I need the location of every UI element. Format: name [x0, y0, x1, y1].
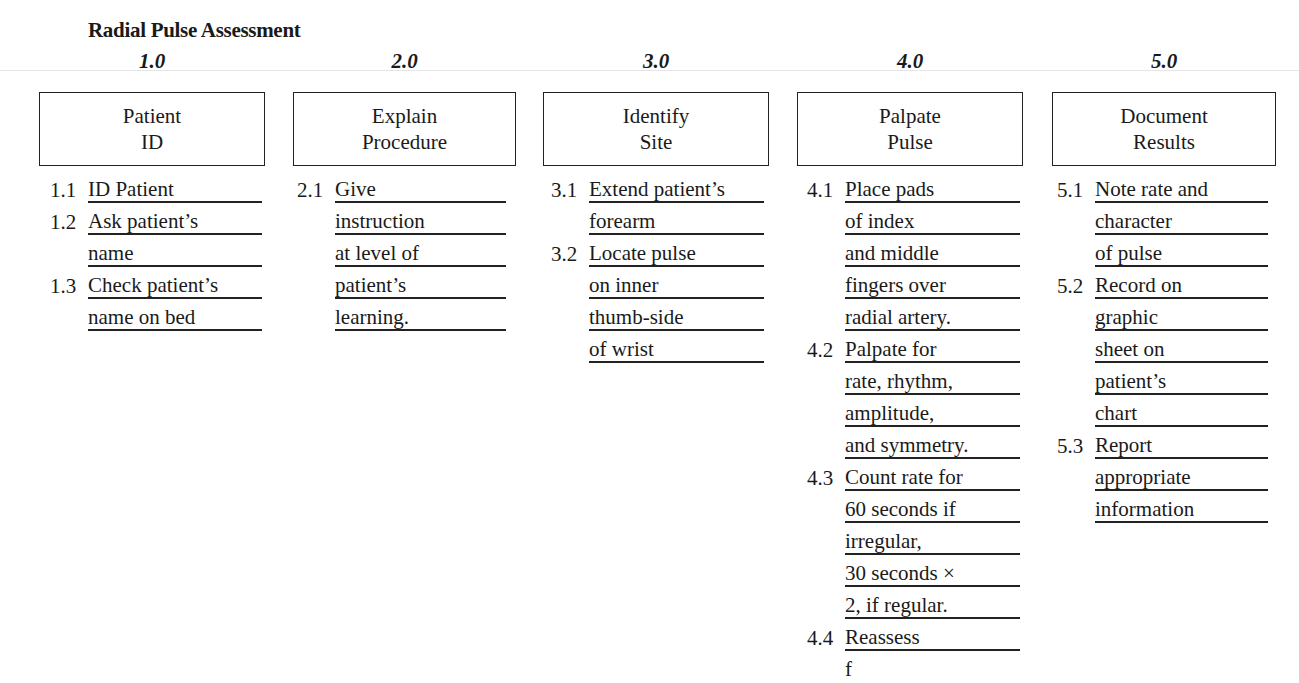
substep-line: 4.2Palpate for: [807, 334, 1022, 366]
step-box-line: ID: [141, 129, 163, 155]
substep-line: fingers over: [807, 270, 1022, 302]
substep-line: 4.3Count rate for: [807, 462, 1022, 494]
step-box-line: Patient: [123, 103, 181, 129]
substep-line: radial artery.: [807, 302, 1022, 334]
step-number-3: 3.0: [543, 49, 769, 74]
substep-text: name on bed: [88, 302, 262, 331]
substep-line: 5.2Record on: [1057, 270, 1272, 302]
substep-line: amplitude,: [807, 398, 1022, 430]
substep-text: Extend patient’s: [589, 174, 764, 203]
substep-line: 3.1Extend patient’s: [551, 174, 766, 206]
substep-line: graphic: [1057, 302, 1272, 334]
substep-text: appropriate: [1095, 462, 1268, 491]
substep-text: Ask patient’s: [88, 206, 262, 235]
substep-number: 1.3: [50, 270, 76, 302]
substep-text: of wrist: [589, 334, 764, 363]
substep-line: 2, if regular.: [807, 590, 1022, 622]
substep-text: Record on: [1095, 270, 1268, 299]
substep-text: patient’s: [335, 270, 506, 299]
substep-line: chart: [1057, 398, 1272, 430]
step-box-identify-site: Identify Site: [543, 92, 769, 166]
substep-text: amplitude,: [845, 398, 1020, 427]
step-box-line: Pulse: [887, 129, 933, 155]
substep-line: and middle: [807, 238, 1022, 270]
substep-number: 4.4: [807, 622, 833, 654]
substep-line: 5.3Report: [1057, 430, 1272, 462]
step-box-line: Site: [640, 129, 673, 155]
substeps-1: 1.1ID Patient 1.2Ask patient’s name 1.3C…: [50, 174, 265, 334]
substeps-4: 4.1Place pads of index and middle finger…: [807, 174, 1022, 683]
substep-line: name: [50, 238, 265, 270]
substep-line: 1.2Ask patient’s: [50, 206, 265, 238]
step-box-explain-procedure: Explain Procedure: [293, 92, 516, 166]
step-number-2: 2.0: [293, 49, 516, 74]
substeps-5: 5.1Note rate and character of pulse 5.2R…: [1057, 174, 1272, 526]
substep-line: forearm: [551, 206, 766, 238]
substep-line: f: [807, 654, 1022, 683]
substep-line: 4.1Place pads: [807, 174, 1022, 206]
step-number-1: 1.0: [39, 49, 265, 74]
step-box-palpate-pulse: Palpate Pulse: [797, 92, 1023, 166]
step-number-5: 5.0: [1052, 49, 1276, 74]
diagram-title: Radial Pulse Assessment: [88, 18, 300, 43]
substep-line: of wrist: [551, 334, 766, 366]
substep-line: 1.3Check patient’s: [50, 270, 265, 302]
substep-line: instruction: [297, 206, 512, 238]
substep-text: ID Patient: [88, 174, 262, 203]
substep-line: irregular,: [807, 526, 1022, 558]
substep-text: Check patient’s: [88, 270, 262, 299]
substep-text: sheet on: [1095, 334, 1268, 363]
substep-text: Reassess: [845, 622, 1020, 651]
substep-text: Count rate for: [845, 462, 1020, 491]
substep-line: information: [1057, 494, 1272, 526]
substep-text: Palpate for: [845, 334, 1020, 363]
substep-text: radial artery.: [845, 302, 1020, 331]
substep-line: learning.: [297, 302, 512, 334]
substep-number: 5.1: [1057, 174, 1083, 206]
substep-number: 3.1: [551, 174, 577, 206]
substep-line: 60 seconds if: [807, 494, 1022, 526]
substep-text: graphic: [1095, 302, 1268, 331]
substep-line: of pulse: [1057, 238, 1272, 270]
substep-text: Note rate and: [1095, 174, 1268, 203]
substep-text: chart: [1095, 398, 1268, 427]
step-number-4: 4.0: [797, 49, 1023, 74]
substep-line: character: [1057, 206, 1272, 238]
substep-number: 4.1: [807, 174, 833, 206]
step-box-line: Explain: [372, 103, 437, 129]
substep-text: learning.: [335, 302, 506, 331]
step-box-line: Results: [1133, 129, 1195, 155]
substep-line: and symmetry.: [807, 430, 1022, 462]
substep-number: 4.2: [807, 334, 833, 366]
step-box-document-results: Document Results: [1052, 92, 1276, 166]
substep-text: fingers over: [845, 270, 1020, 299]
substep-line: patient’s: [1057, 366, 1272, 398]
substeps-2: 2.1Give instruction at level of patient’…: [297, 174, 512, 334]
substep-text: 2, if regular.: [845, 590, 1020, 619]
substep-text: Place pads: [845, 174, 1020, 203]
substep-line: patient’s: [297, 270, 512, 302]
substep-line: 30 seconds ×: [807, 558, 1022, 590]
substep-text: of pulse: [1095, 238, 1268, 267]
substep-line: 5.1Note rate and: [1057, 174, 1272, 206]
substep-line: name on bed: [50, 302, 265, 334]
substep-line: on inner: [551, 270, 766, 302]
substep-text: 30 seconds ×: [845, 558, 1020, 587]
substep-text: thumb-side: [589, 302, 764, 331]
substep-line: appropriate: [1057, 462, 1272, 494]
step-box-line: Identify: [623, 103, 689, 129]
substep-text: character: [1095, 206, 1268, 235]
substep-number: 3.2: [551, 238, 577, 270]
substep-text: forearm: [589, 206, 764, 235]
substep-number: 5.2: [1057, 270, 1083, 302]
substep-text: information: [1095, 494, 1268, 523]
substep-line: of index: [807, 206, 1022, 238]
substep-text: Locate pulse: [589, 238, 764, 267]
substep-number: 2.1: [297, 174, 323, 206]
substep-line: 1.1ID Patient: [50, 174, 265, 206]
substep-text: f: [845, 654, 1020, 683]
substep-text: of index: [845, 206, 1020, 235]
substep-number: 5.3: [1057, 430, 1083, 462]
substep-text: instruction: [335, 206, 506, 235]
substep-number: 1.1: [50, 174, 76, 206]
